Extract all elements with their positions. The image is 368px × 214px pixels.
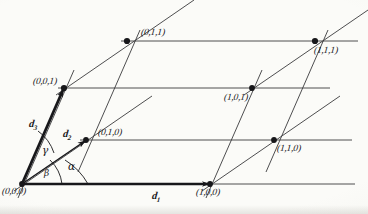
- vector-label-d2: d2: [62, 128, 72, 142]
- dot-110: [271, 137, 277, 143]
- vertex-label-011: (0,1,1): [140, 27, 165, 37]
- dot-111: [312, 38, 318, 44]
- d2-line-from-101: [244, 10, 368, 95]
- d3-direction-lines: [18, 30, 328, 198]
- d3-line-from-010: [78, 30, 140, 172]
- vertex-label-010: (0,1,0): [97, 127, 122, 137]
- dot-001: [61, 85, 67, 91]
- vertex-label-100: (1,0,0): [195, 187, 220, 197]
- dot-010: [83, 137, 89, 143]
- vector-label-d3: d3: [28, 118, 38, 132]
- vertex-label-000: (0,0,0): [1, 186, 26, 196]
- d2-line-from-100: [202, 96, 340, 191]
- lattice-point-dots: [19, 38, 318, 187]
- vertex-label-111: (1,1,1): [313, 45, 338, 55]
- vector-label-d1: d1: [151, 190, 161, 204]
- vertex-label-001: (0,0,1): [32, 76, 57, 86]
- dot-011: [124, 38, 130, 44]
- lattice-drawing: [0, 0, 368, 214]
- vertex-label-110: (1,1,0): [276, 143, 301, 153]
- angle-label-alpha: α: [68, 160, 75, 172]
- vertex-label-101: (1,0,1): [223, 92, 248, 102]
- dot-101: [249, 85, 255, 91]
- unit-cell-figure: (0,0,0) (1,0,0) (0,1,0) (1,1,0) (0,0,1) …: [0, 0, 368, 214]
- d2-line-from-001: [56, 0, 194, 95]
- angle-label-beta: β: [44, 168, 49, 178]
- basis-vectors: [22, 90, 209, 184]
- angle-label-gamma: γ: [42, 144, 48, 156]
